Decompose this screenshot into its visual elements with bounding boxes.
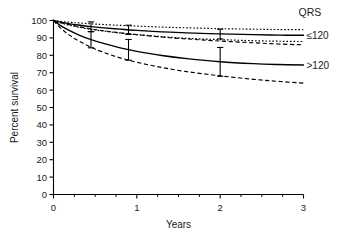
x-tick-label: 2 — [218, 202, 223, 213]
y-tick-label: 40 — [36, 119, 47, 130]
x-tick-label: 3 — [301, 202, 306, 213]
survival-chart-figure: 01020304050607080901000123YearsPercent s… — [0, 0, 337, 232]
y-tick-label: 100 — [31, 15, 47, 26]
legend-label-1: >120 — [307, 60, 330, 71]
x-tick-label: 1 — [134, 202, 139, 213]
x-axis-title: Years — [166, 219, 191, 230]
y-tick-label: 30 — [36, 137, 47, 148]
y-tick-label: 70 — [36, 67, 47, 78]
y-tick-label: 20 — [36, 154, 47, 165]
y-tick-label: 50 — [36, 102, 47, 113]
legend-title: QRS — [299, 6, 322, 18]
y-axis-title: Percent survival — [9, 72, 20, 143]
legend-label-0: ≤120 — [307, 30, 330, 41]
y-tick-label: 10 — [36, 172, 47, 183]
y-tick-label: 60 — [36, 85, 47, 96]
y-tick-label: 80 — [36, 50, 47, 61]
y-tick-label: 90 — [36, 32, 47, 43]
y-tick-label: 0 — [42, 189, 47, 200]
survival-plot-svg: 01020304050607080901000123YearsPercent s… — [0, 0, 337, 232]
x-tick-label: 0 — [51, 202, 56, 213]
